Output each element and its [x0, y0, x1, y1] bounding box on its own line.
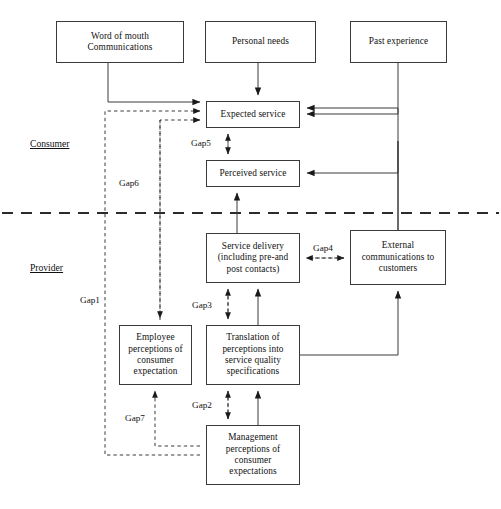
node-past-experience[interactable]: Past experience	[350, 21, 447, 63]
node-service-delivery[interactable]: Service delivery (including pre-and post…	[206, 233, 300, 283]
edge-external-to-perceived	[307, 141, 398, 173]
node-past-experience-label: Past experience	[369, 36, 429, 47]
gap-label-gap5: Gap5	[190, 138, 212, 148]
node-management-perceptions-label: Management perceptions of consumer expec…	[226, 432, 280, 478]
gap-label-gap1: Gap1	[79, 295, 101, 305]
node-translation-of-perceptions[interactable]: Translation of perceptions into service …	[206, 325, 300, 385]
edge-gap1-management-to-expected	[105, 111, 200, 455]
node-perceived-service[interactable]: Perceived service	[206, 160, 300, 187]
node-expected-service[interactable]: Expected service	[206, 101, 300, 128]
node-word-of-mouth-label: Word of mouth Communications	[88, 31, 153, 54]
node-employee-perceptions[interactable]: Employee perceptions of consumer expecta…	[119, 325, 192, 385]
node-management-perceptions[interactable]: Management perceptions of consumer expec…	[206, 425, 300, 485]
gap-label-gap2: Gap2	[191, 400, 213, 410]
zone-label-provider: Provider	[30, 262, 63, 273]
edge-word-of-mouth-to-expected	[108, 63, 200, 102]
edge-gap6-employee-to-expected	[160, 120, 200, 320]
node-personal-needs[interactable]: Personal needs	[205, 21, 316, 63]
zone-label-consumer: Consumer	[30, 138, 69, 149]
node-external-communications[interactable]: External communications to customers	[350, 230, 446, 285]
node-employee-perceptions-label: Employee perceptions of consumer expecta…	[128, 332, 182, 378]
service-quality-gap-diagram: Consumer Provider Word of mouth Communic…	[0, 0, 501, 509]
gap-label-gap3: Gap3	[191, 300, 213, 310]
node-translation-of-perceptions-label: Translation of perceptions into service …	[222, 332, 283, 378]
edge-external-to-expected	[307, 108, 398, 230]
node-word-of-mouth[interactable]: Word of mouth Communications	[56, 21, 184, 63]
node-perceived-service-label: Perceived service	[219, 168, 286, 179]
node-external-communications-label: External communications to customers	[362, 240, 435, 274]
gap-label-gap4: Gap4	[312, 243, 334, 253]
gap-label-gap6: Gap6	[118, 178, 140, 188]
edge-past-experience-to-expected	[307, 63, 398, 114]
node-service-delivery-label: Service delivery (including pre-and post…	[218, 241, 289, 275]
node-personal-needs-label: Personal needs	[232, 36, 289, 47]
node-expected-service-label: Expected service	[221, 109, 286, 120]
edge-translation-to-external	[300, 291, 398, 355]
gap-label-gap7: Gap7	[124, 413, 146, 423]
